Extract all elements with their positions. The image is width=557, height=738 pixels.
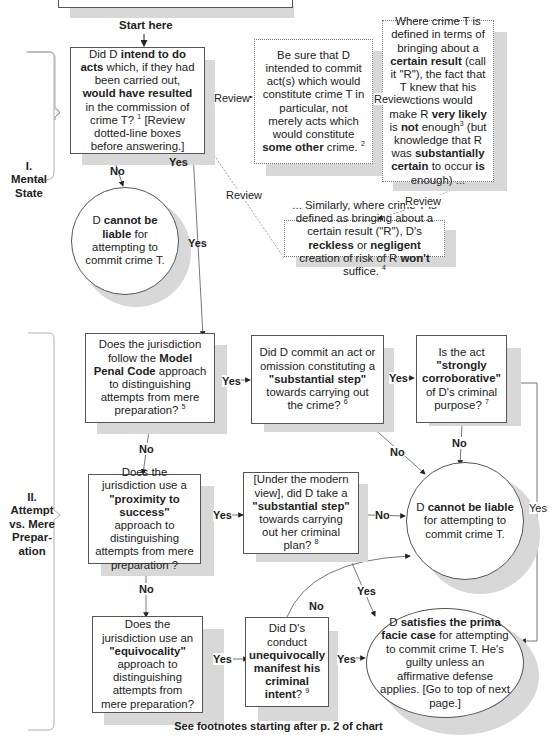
strongly-corroborative-box: Is the act "strongly corroborative" of D… [416, 335, 507, 423]
edge-label-no: No [375, 509, 390, 521]
edge-label-no: No [309, 600, 324, 612]
top-box-fragment [58, 0, 293, 8]
review-box-specific-crime: Be sure that D intended to commit act(s)… [254, 39, 373, 164]
edge-label-yes: Yes [213, 653, 232, 665]
edge-label-yes: Yes [222, 375, 241, 387]
substantial-step-mpc-box: Did D commit an act or omission constitu… [251, 335, 384, 424]
equivocality-question-box: Does the jurisdiction use an "equivocali… [92, 616, 203, 713]
edge-label-yes: Yes [213, 509, 232, 521]
edge-label-no: No [390, 446, 405, 458]
proximity-question-box: Does the jurisdiction use a "proximity t… [88, 474, 201, 564]
edge-label-no: No [139, 443, 154, 455]
outcome-not-liable-1: D cannot be liable for attempting to com… [71, 187, 179, 295]
edge-label-review: Review [226, 189, 262, 201]
intent-question-box: Did D intend to do acts which, if they h… [70, 47, 205, 154]
mpc-question-box: Does the jurisdiction follow the Model P… [85, 333, 215, 423]
edge-label-yes: Yes [337, 653, 356, 665]
edge-label-yes: Yes [169, 156, 188, 168]
section-label-attempt: II. Attempt vs. Mere Prepar- ation [6, 491, 58, 558]
edge-label-no: No [110, 165, 125, 177]
edge-label-yes: Yes [529, 502, 547, 514]
edge-label-yes: Yes [357, 585, 376, 597]
start-label: Start here [119, 19, 173, 31]
section-label-mental-state: I. Mental State [6, 160, 52, 200]
review-box-reckless: ... Similarly, where crime T is defined … [284, 220, 445, 257]
footer-note: See footnotes starting after p. 2 of cha… [0, 720, 557, 732]
edge-label-review: Review [405, 195, 441, 207]
edge-label-yes: Yes [188, 237, 207, 249]
unequivocal-intent-box: Did D's conduct unequivocally manifest h… [245, 617, 329, 707]
edge-label-yes: Yes [389, 372, 408, 384]
edge-label-review: Review [374, 93, 410, 105]
edge-label-no: No [139, 583, 154, 595]
outcome-not-liable-2: D cannot be liable for attempting to com… [406, 462, 524, 580]
edge-label-review: Review [214, 92, 250, 104]
outcome-prima-facie: D satisfies the prima facie case for att… [366, 608, 524, 718]
modern-view-step-box: [Under the modern view], did D take a "s… [243, 472, 359, 554]
edge-label-no: No [452, 437, 467, 449]
